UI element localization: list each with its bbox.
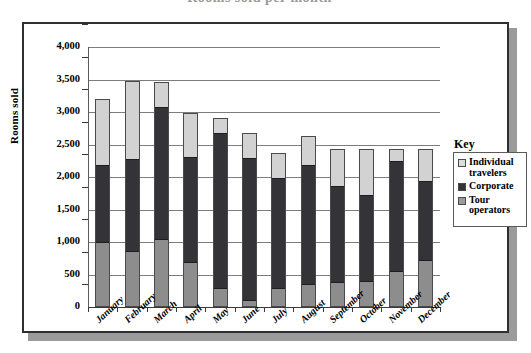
legend-item[interactable]: Individual travelers <box>458 157 523 178</box>
y-axis-tick <box>82 154 88 155</box>
legend-item-label: Corporate <box>469 181 513 192</box>
x-axis-label-march: March <box>151 298 179 325</box>
corporate-swatch <box>458 183 466 191</box>
x-axis-label-june: June <box>239 303 262 325</box>
legend-item-label: Tour operators <box>469 195 523 216</box>
x-axis-label-july: July <box>269 305 290 325</box>
y-axis-title: Rooms sold <box>8 88 20 144</box>
x-axis-label-april: April <box>181 303 204 325</box>
legend-item-label: Individual travelers <box>469 157 523 178</box>
legend-item[interactable]: Corporate <box>458 181 523 192</box>
y-axis-tick <box>82 24 88 25</box>
legend-box: Individual travelersCorporateTour operat… <box>453 152 527 227</box>
x-axis-label-february: February <box>122 290 158 325</box>
y-axis-tick <box>82 284 88 285</box>
y-axis-tick <box>82 187 88 188</box>
legend-title: Key <box>454 137 475 152</box>
chart-title-clipped: Rooms sold per month <box>0 0 519 18</box>
individual-travelers-swatch <box>458 159 466 167</box>
chart-title-text: Rooms sold per month <box>0 0 519 3</box>
chart-frame: 4,0003,5003,0002,5002,0001,5001,0005000 … <box>22 22 509 333</box>
y-axis-tick <box>82 89 88 90</box>
tour-operators-swatch <box>458 197 466 205</box>
y-axis-tick <box>82 252 88 253</box>
x-axis-label-august: August <box>298 297 327 325</box>
x-axis-label-january: January <box>93 294 126 326</box>
x-axis-label-may: May <box>210 304 231 325</box>
legend-item[interactable]: Tour operators <box>458 195 523 216</box>
y-axis-tick <box>82 122 88 123</box>
y-axis-tick <box>82 57 88 58</box>
y-axis-tick <box>82 219 88 220</box>
